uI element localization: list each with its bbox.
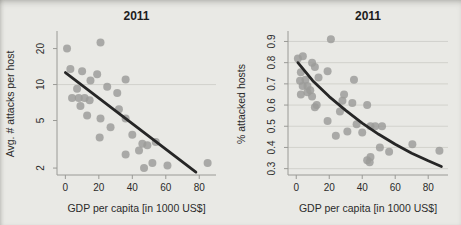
y-tick-label: 0.3 [266,161,277,175]
data-point [298,52,306,60]
y-axis-ticks: 0.30.40.50.60.70.80.9 [266,34,288,176]
data-point [326,35,334,43]
data-point [378,122,386,130]
chart-title: 2011 [123,9,149,23]
data-point [83,112,91,120]
x-tick-label: 20 [93,182,105,193]
data-point [113,89,121,97]
x-axis-label: GDP per capita [in 1000 US$] [67,202,205,214]
scatter-points [293,35,443,166]
data-point [331,132,339,140]
y-tick-label: 0.6 [266,98,277,112]
x-tick-label: 0 [293,182,299,193]
data-point [385,148,393,156]
data-point [148,159,156,167]
data-point [408,140,416,148]
data-point [363,101,371,109]
data-point [312,101,320,109]
data-point [135,147,143,155]
x-tick-label: 60 [160,182,172,193]
y-axis-label: Avg. # attacks per host [4,51,16,158]
right-panel: 0204060800.30.40.50.60.70.80.92011GDP pe… [231,0,461,225]
x-tick-label: 0 [63,182,69,193]
chart-title: 2011 [354,9,380,23]
y-tick-label: 0.8 [266,55,277,69]
data-point [343,128,351,136]
x-tick-label: 40 [356,182,368,193]
data-point [128,131,136,139]
y-axis-ticks: 251020 [35,43,57,171]
y-tick-label: 10 [35,79,46,91]
data-point [308,93,316,101]
y-tick-label: 0.7 [266,76,277,90]
data-point [66,65,74,73]
trend-line [65,73,196,173]
data-point [97,114,105,122]
y-tick-label: 5 [35,117,46,123]
data-point [103,83,111,91]
data-point [73,85,81,93]
data-point [86,77,94,85]
y-tick-label: 0.4 [266,140,277,154]
scatter-points [63,38,212,172]
data-point [358,129,366,137]
attacks-per-host-chart: 0204060802510202011GDP per capita [in 10… [0,0,230,225]
data-point [96,134,104,142]
data-point [122,150,130,158]
x-axis-ticks: 020406080 [63,175,206,193]
x-tick-label: 80 [194,182,206,193]
y-tick-label: 0.9 [266,34,277,48]
data-point [63,45,71,53]
data-point [143,141,151,149]
data-point [349,76,357,84]
data-point [97,38,105,46]
y-axis-label: % attacked hosts [235,64,247,144]
x-tick-label: 20 [323,182,335,193]
attacked-hosts-chart: 0204060800.30.40.50.60.70.80.92011GDP pe… [231,0,461,225]
data-point [348,99,356,107]
x-tick-label: 40 [127,182,139,193]
x-tick-label: 60 [389,182,401,193]
data-point [204,159,212,167]
data-point [78,67,86,75]
data-point [340,90,348,98]
data-point [86,96,94,104]
data-point [435,147,443,155]
data-point [366,153,374,161]
x-axis-ticks: 020406080 [293,175,434,193]
y-tick-label: 2 [35,165,46,171]
data-point [76,102,84,110]
data-point [163,162,171,170]
data-point [107,123,115,131]
data-point [375,143,383,151]
data-point [323,67,331,75]
data-point [310,63,318,71]
data-point [122,76,130,84]
y-tick-label: 20 [35,43,46,55]
x-tick-label: 80 [422,182,434,193]
x-axis-label: GDP per capita [in 1000 US$] [298,202,436,214]
two-panel-scatter-figure: 0204060802510202011GDP per capita [in 10… [0,0,461,225]
data-point [323,117,331,125]
left-panel: 0204060802510202011GDP per capita [in 10… [0,0,231,225]
data-point [93,70,101,78]
y-tick-label: 0.5 [266,119,277,133]
data-point [314,74,322,82]
data-point [140,164,148,172]
